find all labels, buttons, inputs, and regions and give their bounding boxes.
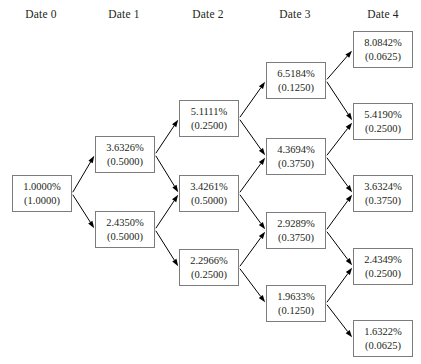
node-rate: 3.4261% bbox=[190, 180, 228, 193]
column-header-date-4: Date 4 bbox=[367, 8, 399, 20]
column-header-date-2: Date 2 bbox=[192, 8, 224, 20]
tree-edge-n3_3-to-n4_3 bbox=[327, 268, 352, 303]
tree-node-n2_0: 5.1111%(0.2500) bbox=[179, 100, 239, 137]
arrowhead bbox=[259, 158, 265, 165]
node-probability: (0.1250) bbox=[278, 81, 314, 94]
node-probability: (1.0000) bbox=[24, 194, 60, 207]
tree-node-n3_3: 1.9633%(0.1250) bbox=[266, 285, 326, 322]
tree-edge-n1_0-to-n2_1 bbox=[156, 156, 178, 192]
tree-edge-n1_1-to-n2_1 bbox=[156, 195, 178, 229]
tree-node-n4_4: 1.6322%(0.0625) bbox=[353, 320, 413, 357]
tree-edge-n0_0-to-n1_0 bbox=[73, 156, 94, 192]
arrowhead bbox=[259, 82, 265, 89]
tree-edge-n2_1-to-n3_2 bbox=[240, 195, 265, 230]
tree-node-n2_1: 3.4261%(0.5000) bbox=[179, 175, 239, 212]
tree-edge-n3_1-to-n4_2 bbox=[327, 158, 352, 193]
node-rate: 2.4349% bbox=[364, 253, 402, 266]
node-rate: 3.6326% bbox=[106, 141, 144, 154]
arrowhead bbox=[172, 120, 178, 127]
arrowhead bbox=[346, 195, 352, 202]
arrowhead bbox=[259, 232, 265, 239]
arrowhead bbox=[172, 195, 178, 202]
arrowhead bbox=[345, 51, 352, 58]
tree-node-n3_0: 6.5184%(0.1250) bbox=[266, 62, 326, 99]
node-probability: (0.3750) bbox=[278, 231, 314, 244]
arrowhead bbox=[88, 156, 94, 163]
tree-node-n1_0: 3.6326%(0.5000) bbox=[95, 136, 155, 173]
tree-node-n0_0: 1.0000%(1.0000) bbox=[12, 175, 72, 212]
tree-node-n3_1: 4.3694%(0.3750) bbox=[266, 138, 326, 175]
node-probability: (0.1250) bbox=[278, 304, 314, 317]
tree-node-n4_2: 3.6324%(0.3750) bbox=[353, 175, 413, 212]
tree-edge-n3_0-to-n4_1 bbox=[327, 82, 352, 121]
tree-edge-n2_0-to-n3_0 bbox=[240, 82, 265, 118]
arrowhead bbox=[172, 259, 178, 266]
tree-node-n4_1: 5.4190%(0.2500) bbox=[353, 103, 413, 140]
arrowhead bbox=[346, 185, 352, 192]
tree-node-n1_1: 2.4350%(0.5000) bbox=[95, 211, 155, 248]
arrowhead bbox=[346, 268, 352, 275]
node-probability: (0.2500) bbox=[191, 119, 227, 132]
column-header-date-3: Date 3 bbox=[279, 8, 311, 20]
tree-edge-n2_1-to-n3_1 bbox=[240, 158, 265, 193]
node-rate: 1.0000% bbox=[23, 180, 61, 193]
arrowhead bbox=[346, 123, 352, 130]
tree-edge-n3_1-to-n4_1 bbox=[327, 123, 352, 156]
tree-edge-n3_3-to-n4_4 bbox=[327, 305, 352, 338]
tree-edge-n1_0-to-n2_0 bbox=[156, 120, 178, 154]
tree-edge-n0_0-to-n1_1 bbox=[73, 195, 94, 228]
arrowhead bbox=[346, 330, 352, 337]
node-probability: (0.5000) bbox=[191, 194, 227, 207]
arrowhead bbox=[88, 221, 94, 228]
node-probability: (0.0625) bbox=[365, 50, 401, 63]
node-probability: (0.3750) bbox=[365, 194, 401, 207]
node-rate: 1.9633% bbox=[277, 290, 315, 303]
node-probability: (0.2500) bbox=[365, 267, 401, 280]
arrowhead bbox=[346, 258, 352, 265]
tree-edge-n3_2-to-n4_2 bbox=[327, 195, 352, 230]
tree-node-n3_2: 2.9289%(0.3750) bbox=[266, 212, 326, 249]
node-rate: 4.3694% bbox=[277, 143, 315, 156]
arrowhead bbox=[259, 148, 265, 155]
tree-node-n2_2: 2.2966%(0.2500) bbox=[179, 249, 239, 286]
column-header-date-0: Date 0 bbox=[25, 8, 57, 20]
node-rate: 1.6322% bbox=[364, 325, 402, 338]
node-rate: 8.0842% bbox=[364, 36, 402, 49]
node-probability: (0.5000) bbox=[107, 230, 143, 243]
node-rate: 2.4350% bbox=[106, 216, 144, 229]
arrowhead bbox=[259, 222, 265, 229]
node-rate: 5.4190% bbox=[364, 108, 402, 121]
arrowhead bbox=[346, 113, 352, 120]
node-probability: (0.3750) bbox=[278, 157, 314, 170]
node-probability: (0.2500) bbox=[191, 268, 227, 281]
node-rate: 2.9289% bbox=[277, 217, 315, 230]
column-header-date-1: Date 1 bbox=[108, 8, 140, 20]
arrowhead bbox=[172, 185, 178, 192]
tree-edge-n1_1-to-n2_2 bbox=[156, 231, 178, 266]
node-rate: 6.5184% bbox=[277, 67, 315, 80]
node-rate: 5.1111% bbox=[191, 105, 227, 118]
tree-edge-n3_2-to-n4_3 bbox=[327, 232, 352, 266]
tree-edge-n2_0-to-n3_1 bbox=[240, 120, 265, 156]
node-rate: 2.2966% bbox=[190, 254, 228, 267]
tree-edge-n2_2-to-n3_3 bbox=[240, 269, 265, 303]
tree-edge-n3_0-to-n4_0 bbox=[327, 51, 352, 80]
node-probability: (0.5000) bbox=[107, 155, 143, 168]
arrowhead bbox=[259, 295, 265, 302]
binomial-tree-diagram: Date 0Date 1Date 2Date 3Date 4 1.0000%(1… bbox=[0, 0, 421, 364]
tree-node-n4_3: 2.4349%(0.2500) bbox=[353, 248, 413, 285]
tree-edge-n2_2-to-n3_2 bbox=[240, 232, 265, 267]
node-probability: (0.0625) bbox=[365, 339, 401, 352]
tree-node-n4_0: 8.0842%(0.0625) bbox=[353, 31, 413, 68]
node-probability: (0.2500) bbox=[365, 122, 401, 135]
node-rate: 3.6324% bbox=[364, 180, 402, 193]
